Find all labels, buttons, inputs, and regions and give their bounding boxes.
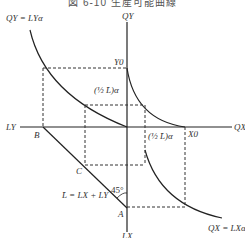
half-l-upper-label: (½ L̄)α bbox=[94, 86, 119, 95]
qx-axis-label: QX bbox=[234, 123, 245, 132]
constraint-label: L̄ = LX + LY bbox=[62, 191, 108, 200]
point-c-label: C bbox=[76, 167, 82, 176]
production-possibility-diagram bbox=[0, 0, 245, 238]
y0-label: Y0 bbox=[114, 58, 124, 67]
qy-curve-label: QY = LYα bbox=[6, 14, 43, 23]
angle-label: 45° bbox=[111, 186, 124, 195]
qy-axis-label: QY bbox=[122, 12, 134, 21]
half-l-lower-label: (½ L̄)α bbox=[148, 132, 173, 141]
qx-curve-label: QX = LXα bbox=[208, 224, 245, 233]
x0-label: X0 bbox=[188, 130, 198, 139]
point-a-label: A bbox=[118, 210, 124, 219]
point-b-label: B bbox=[34, 131, 40, 140]
qx-curve bbox=[145, 150, 222, 218]
ppf-curve bbox=[127, 68, 185, 127]
lx-axis-label: LX bbox=[122, 232, 133, 238]
qy-curve bbox=[30, 30, 127, 127]
ly-axis-label: LY bbox=[6, 123, 16, 132]
